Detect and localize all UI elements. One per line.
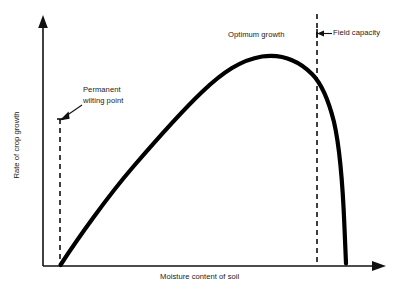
permanent-wilting-point-label: Permanentwilting point [83, 85, 123, 106]
x-axis-arrowhead [372, 261, 386, 271]
wilting-point-line-2: wilting point [83, 96, 123, 105]
field-capacity-label: Field capacity [333, 28, 380, 38]
chart-figure: Optimum growth Field capacity Permanentw… [0, 0, 414, 292]
wilting-point-line-1: Permanent [83, 85, 121, 94]
x-axis-label: Moisture content of soil [160, 272, 239, 282]
y-axis-label: Rate of crop growth [12, 90, 22, 200]
field-capacity-arrow-icon [317, 30, 324, 36]
optimum-growth-label: Optimum growth [228, 30, 284, 40]
y-axis-arrowhead [38, 15, 48, 28]
chart-canvas [0, 0, 414, 292]
